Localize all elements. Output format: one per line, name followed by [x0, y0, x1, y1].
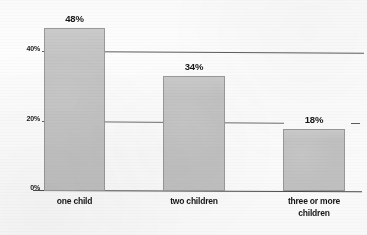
x-axis-category-label-two-children: two children: [158, 196, 230, 208]
category-label-line-1: three or more: [288, 196, 340, 206]
category-label-line-2: children: [275, 208, 353, 220]
x-axis-category-label-one-child: one child: [39, 196, 110, 208]
plot-area: 40% 20% 0% 48% 34% 18% one child two chi…: [0, 0, 367, 235]
gridline-20-stub: [351, 123, 360, 124]
bar-chart: 40% 20% 0% 48% 34% 18% one child two chi…: [0, 0, 367, 235]
y-axis-tick-label-20: 20%: [18, 115, 40, 122]
y-axis-tick-label-40: 40%: [18, 45, 40, 52]
bar-two-children[interactable]: [163, 76, 225, 191]
bar-one-child[interactable]: [44, 28, 105, 191]
bar-value-label-two-children: 34%: [163, 61, 225, 72]
bar-value-label-three-or-more-children: 18%: [283, 114, 345, 125]
bar-value-label-one-child: 48%: [44, 13, 105, 24]
bar-three-or-more-children[interactable]: [283, 129, 345, 191]
x-axis-category-label-three-or-more-children: three or more children: [275, 196, 353, 219]
